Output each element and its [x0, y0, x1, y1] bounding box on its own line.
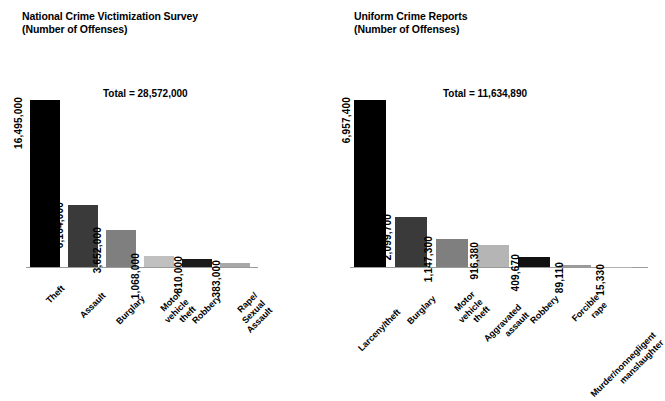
- category-label: Robbery: [528, 293, 561, 326]
- category-label: Motor vehicle theft: [449, 289, 492, 332]
- ucr-plot-area: 6,957,400Larceny/theft2,099,700Burglary1…: [350, 100, 640, 268]
- ucr-total-label: Total = 11,634,890: [443, 88, 527, 99]
- bar-value-label: 6,957,400: [336, 51, 347, 97]
- category-label: Motor vehicle theft: [155, 289, 198, 332]
- category-label: Burglary: [405, 294, 438, 327]
- bar: [220, 263, 250, 267]
- bar-value-label: 16,495,000: [8, 45, 19, 97]
- category-label: Forcible rape: [570, 292, 609, 331]
- bar-value-label: 810,000: [167, 218, 178, 256]
- bar-group: 2,099,700: [395, 99, 427, 267]
- ncvs-plot-area: 16,495,000Theft6,164,000Assault3,652,000…: [26, 100, 258, 268]
- ucr-chart-panel: Uniform Crime Reports (Number of Offense…: [330, 0, 659, 375]
- category-label: Assault: [78, 290, 108, 320]
- bar: [182, 259, 212, 267]
- category-label: Larceny/theft: [356, 307, 402, 353]
- bar-value-label: 89,110: [548, 231, 559, 262]
- bar-group: 89,110: [559, 99, 591, 267]
- bar-group: 383,000: [220, 99, 250, 267]
- bar-value-label: 2,099,700: [377, 167, 388, 213]
- bar-value-label: 15,330: [589, 232, 600, 264]
- category-label: Theft: [44, 283, 67, 306]
- ncvs-chart-panel: National Crime Victimization Survey (Num…: [0, 0, 330, 375]
- ncvs-chart-title: National Crime Victimization Survey (Num…: [22, 10, 198, 36]
- bar: [144, 256, 174, 267]
- ucr-chart-title: Uniform Crime Reports (Number of Offense…: [354, 10, 467, 36]
- bar-value-label: 916,380: [463, 204, 474, 242]
- bar: [436, 239, 468, 267]
- bar-group: 409,670: [518, 99, 550, 267]
- bar-value-label: 1,068,000: [125, 207, 136, 253]
- bar-value-label: 3,652,000: [87, 181, 98, 227]
- bar-value-label: 1,147,300: [418, 190, 429, 236]
- bar-value-label: 409,670: [504, 217, 515, 255]
- ncvs-total-label: Total = 28,572,000: [103, 88, 188, 99]
- bar-value-label: 6,164,000: [49, 155, 60, 201]
- bar: [518, 257, 550, 267]
- bar-value-label: 383,000: [205, 223, 216, 261]
- category-label: Murder/nonnegligent manslaughter: [589, 330, 665, 401]
- bar-group: 15,330: [600, 99, 632, 267]
- ncvs-axis-baseline: [26, 267, 258, 268]
- category-label: Rape/ Sexual Assault: [230, 290, 275, 335]
